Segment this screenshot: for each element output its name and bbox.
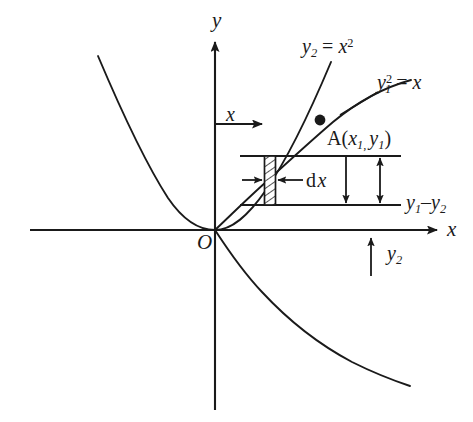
x-distance-arrow — [215, 104, 262, 133]
curve-label-parabola-sideways: y21 = x — [377, 72, 421, 95]
curve-sqrt-equals: = — [391, 71, 412, 93]
point-a-label: A(x1,y1) — [327, 128, 391, 151]
point-a-name: A — [327, 127, 341, 149]
dx-prefix: d — [306, 169, 316, 191]
curve-label-parabola-upward: y2 = x2 — [302, 36, 353, 59]
difference-second-sub: 2 — [440, 202, 446, 216]
difference-minus: – — [421, 191, 431, 213]
figure-canvas — [0, 0, 473, 422]
axis-lines — [30, 42, 437, 410]
leader-line-sqrt — [340, 92, 378, 115]
origin-label: O — [197, 232, 212, 253]
point-a-marker — [315, 115, 326, 126]
curve-parab-rhs-sup: 2 — [347, 36, 353, 50]
y2-base: y — [387, 242, 396, 264]
x-axis-label: x — [447, 219, 456, 240]
curve-parab-equals: = — [317, 35, 338, 57]
point-a-coord-y: y — [369, 127, 378, 149]
dx-variable: x — [318, 169, 327, 191]
curve-sqrt-lower — [215, 230, 410, 386]
point-a-coord-x: x — [348, 127, 357, 149]
difference-label: y1–y2 — [406, 192, 446, 215]
y-axis-label: y — [212, 10, 221, 31]
difference-first: y — [406, 191, 415, 213]
y2-label: y2 — [387, 243, 402, 266]
curve-sqrt-rhs: x — [413, 71, 422, 93]
curve-parab-rhs: x — [338, 35, 347, 57]
point-a-close-paren: ) — [384, 127, 391, 149]
differential-strip — [265, 156, 276, 205]
y2-base-sub: 2 — [396, 253, 402, 267]
point-a-coord-x-sub: 1, — [357, 138, 366, 152]
dx-label: dx — [306, 170, 326, 190]
difference-second: y — [431, 191, 440, 213]
x-dimension-label: x — [226, 104, 235, 124]
math-figure: y x O y2 = x2 y21 = x A(x1,y1) dx y1–y2 … — [0, 0, 473, 422]
curve-parab-base: y — [302, 35, 311, 57]
